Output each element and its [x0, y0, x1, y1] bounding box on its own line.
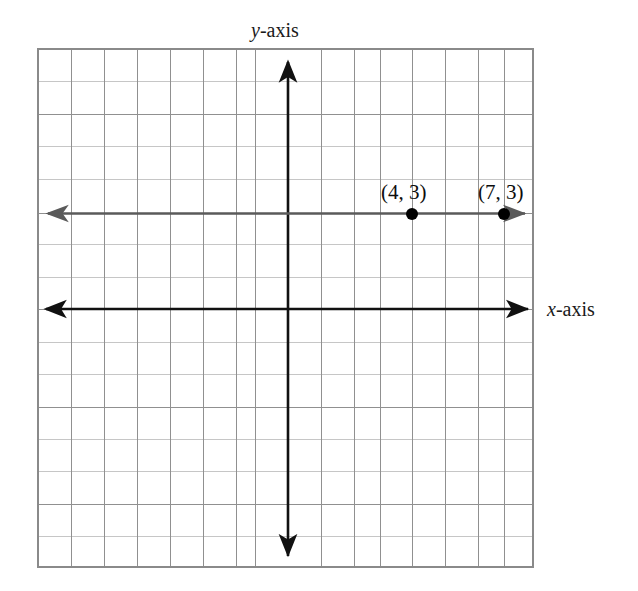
y-axis-label-suffix: -axis [260, 19, 299, 41]
x-axis-label: x-axis [547, 299, 595, 319]
y-axis-label-variable: y [251, 19, 260, 41]
point-label-7-3: (7, 3) [478, 182, 524, 203]
point-label-4-3: (4, 3) [381, 182, 427, 203]
coordinate-plane-figure: y-axis x-axis (4, 3) (7, 3) [0, 0, 638, 591]
y-axis-label: y-axis [251, 20, 299, 40]
x-axis-label-suffix: -axis [556, 298, 595, 320]
x-axis-label-variable: x [547, 298, 556, 320]
plotted-point-7-3 [498, 208, 510, 220]
coordinate-grid-svg [0, 0, 638, 591]
plotted-point-4-3 [406, 208, 418, 220]
